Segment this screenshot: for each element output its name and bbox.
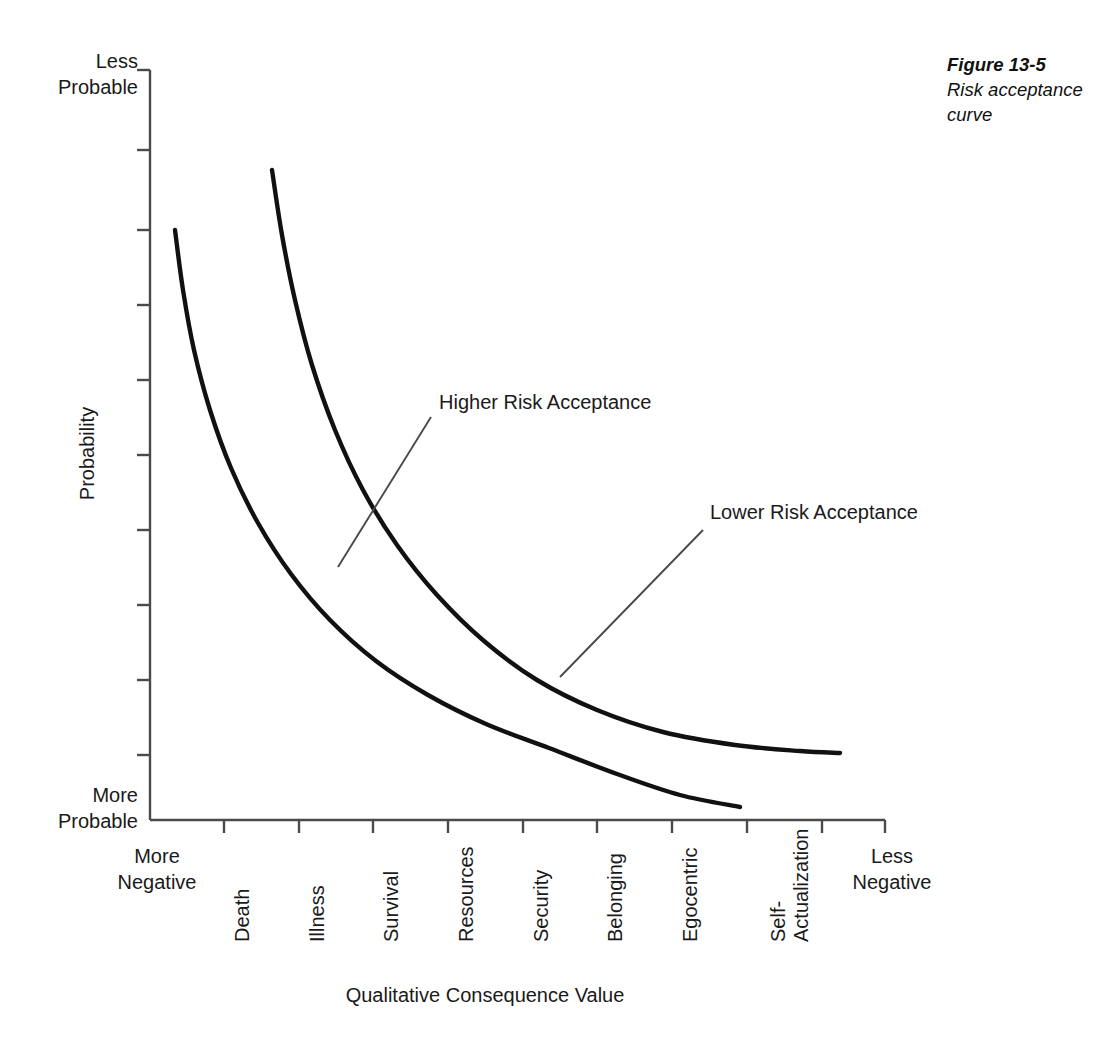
chart-plot-area <box>0 0 1110 1056</box>
annotation-label-lower-risk: Lower Risk Acceptance <box>710 501 918 524</box>
curve-lower-risk-acceptance <box>272 170 840 753</box>
x-axis-category-label: Survival <box>380 871 402 942</box>
x-axis-category-label: Belonging <box>604 853 626 942</box>
x-axis-right-label: Less Negative <box>833 843 951 895</box>
y-axis-top-label: Less Probable <box>20 48 138 100</box>
annotation-label-higher-risk: Higher Risk Acceptance <box>439 391 651 414</box>
x-axis-title: Qualitative Consequence Value <box>205 984 765 1007</box>
risk-acceptance-figure: Figure 13-5 Risk acceptance curve Less P… <box>0 0 1110 1056</box>
x-axis-category-label: Egocentric <box>679 848 701 943</box>
x-axis-category-label: Security <box>530 870 552 942</box>
x-axis-category-label: Illness <box>306 885 328 942</box>
curve-higher-risk-acceptance <box>175 230 740 807</box>
x-axis-category-label: Self- Actualization <box>767 829 813 942</box>
annotation-leader-higher-risk <box>338 417 431 567</box>
y-axis-title: Probability <box>76 354 99 554</box>
annotation-leader-lower-risk <box>560 530 703 677</box>
x-axis-left-label: More Negative <box>98 843 216 895</box>
x-axis-category-label: Resources <box>455 846 477 942</box>
x-axis-category-label: Death <box>231 889 253 942</box>
y-axis-bottom-label: More Probable <box>20 782 138 834</box>
y-axis-ticks <box>137 70 150 755</box>
